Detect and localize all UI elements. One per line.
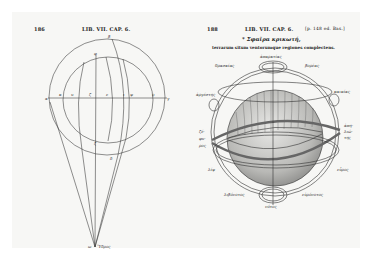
wind-label-left-2: φυ-: [199, 136, 206, 141]
wind-label-upper-right: βορέας: [304, 63, 320, 68]
wind-label-top: ἀπαρκτίας: [260, 54, 282, 59]
armillary-sphere-diagram: ἀπαρκτίας θρασκίας βορέας ἀργέστης καικί…: [0, 0, 371, 262]
wind-label-bottom-right: εὐρόνοτος: [302, 192, 324, 197]
wind-label-left-1: ζέ-: [199, 129, 205, 134]
wind-label-lower-left: λίψ: [207, 167, 216, 172]
wind-label-bottom-left: λιβόνοτος: [223, 192, 245, 197]
wind-label-upper-left: θρασκίας: [215, 63, 235, 68]
wind-label-mid-left: ἀργέστης: [196, 92, 216, 97]
wind-label-lower-right: εὖρος: [337, 167, 349, 172]
wind-label-mid-right: καικίας: [333, 89, 351, 94]
wind-label-right-1: ἀπη-: [344, 123, 354, 128]
wind-label-right-3: της: [344, 135, 352, 140]
wind-label-right-2: λιώ-: [343, 129, 353, 134]
wind-label-bottom: νότος: [265, 204, 277, 209]
wind-label-left-3: ρος: [198, 143, 207, 148]
